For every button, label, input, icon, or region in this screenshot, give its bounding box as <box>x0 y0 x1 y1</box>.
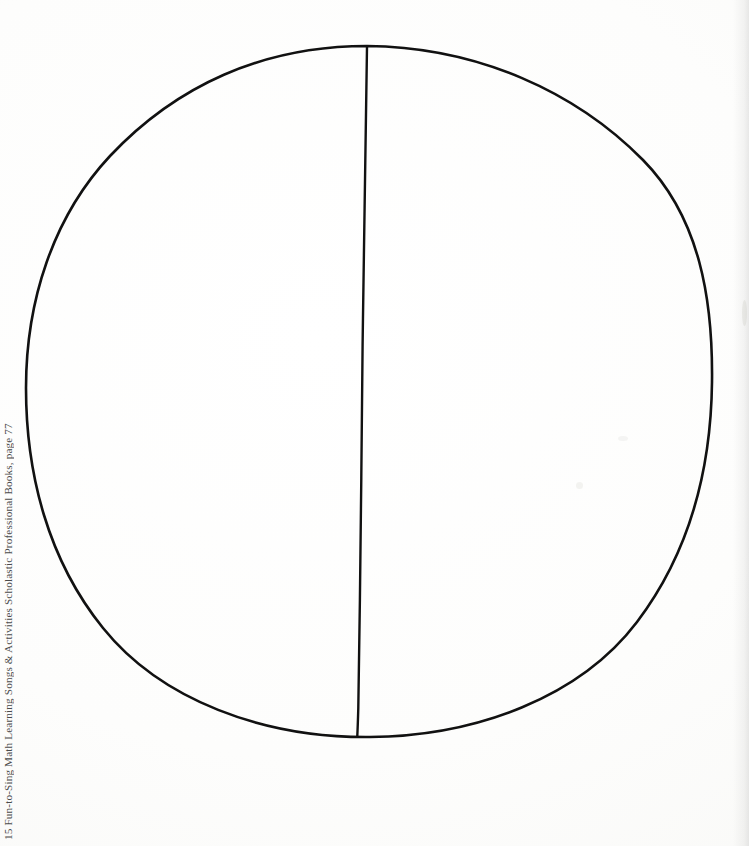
margin-credit: 15 Fun-to-Sing Math Learning Songs & Act… <box>0 0 18 846</box>
fraction-circle-figure <box>0 0 749 846</box>
margin-credit-text: 15 Fun-to-Sing Math Learning Songs & Act… <box>3 423 14 846</box>
circle-divider-line <box>357 47 367 736</box>
circle-outline <box>26 46 712 737</box>
worksheet-page: 15 Fun-to-Sing Math Learning Songs & Act… <box>0 0 749 846</box>
